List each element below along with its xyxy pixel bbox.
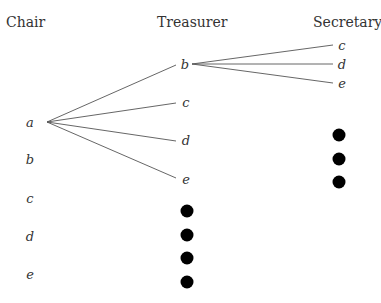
treasurer-ellipsis-dot <box>181 229 194 242</box>
treasurer-ellipsis-dot <box>181 276 194 289</box>
treasurer-ellipsis-dot <box>181 205 194 218</box>
treasurer-node-e: e <box>182 172 190 187</box>
secretary-node-d: d <box>338 57 346 72</box>
treasurer-ellipsis-dot <box>181 252 194 265</box>
secretary-ellipsis-dot <box>333 153 346 166</box>
chair-node-e: e <box>26 267 34 282</box>
secretary-ellipsis-dot <box>333 176 346 189</box>
chair-node-c: c <box>26 191 33 206</box>
chair-node-d: d <box>26 229 34 244</box>
chair-node-a: a <box>26 115 34 130</box>
secretary-ellipsis-dot <box>333 129 346 142</box>
treasurer-node-c: c <box>182 95 189 110</box>
secretary-node-c: c <box>338 38 345 53</box>
election-tree-diagram: Chair Treasurer Secretary a b c d e b c … <box>0 0 381 303</box>
chair-node-b: b <box>26 152 34 167</box>
treasurer-node-d: d <box>182 133 190 148</box>
treasurer-node-b: b <box>181 57 189 72</box>
secretary-node-e: e <box>338 76 346 91</box>
